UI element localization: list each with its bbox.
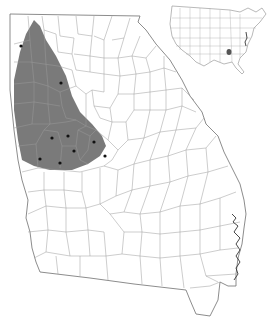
us-inset-state-borders	[170, 8, 262, 64]
occurrence-dot	[19, 44, 22, 47]
occurrence-dot	[38, 157, 41, 160]
us-inset-highlight-georgia	[227, 49, 232, 55]
coastline-marsh	[232, 214, 240, 280]
occurrence-dot	[72, 149, 75, 152]
us-inset-east-coast	[245, 32, 247, 46]
georgia-county-map	[0, 0, 270, 329]
species-range-shading	[14, 20, 106, 170]
occurrence-dot	[59, 81, 62, 84]
occurrence-dot	[92, 140, 95, 143]
us-inset-map	[170, 6, 266, 74]
us-inset-outline	[170, 6, 266, 74]
occurrence-dot	[58, 161, 61, 164]
occurrence-dot	[50, 136, 53, 139]
occurrence-dot	[66, 134, 69, 137]
occurrence-dot	[103, 154, 106, 157]
